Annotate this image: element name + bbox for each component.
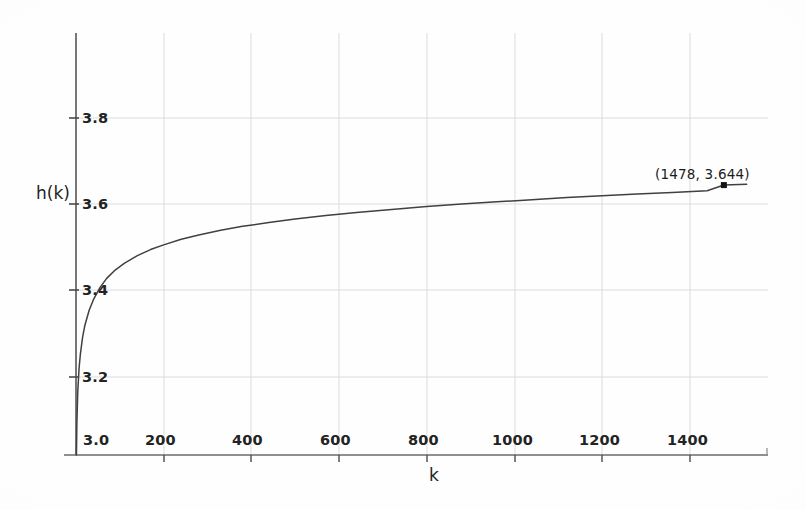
x-tick-label-400: 400 bbox=[232, 432, 263, 448]
annotated-data-point-marker[interactable] bbox=[721, 182, 727, 188]
data-series-curve bbox=[76, 184, 746, 455]
y-tick-label-3.4: 3.4 bbox=[82, 282, 108, 298]
horizontal-gridlines bbox=[76, 118, 768, 377]
y-tick-label-3.2: 3.2 bbox=[82, 369, 108, 385]
x-tick-label-200: 200 bbox=[145, 432, 176, 448]
x-axis-title: k bbox=[429, 465, 439, 485]
data-point-annotation: (1478, 3.644) bbox=[655, 166, 750, 182]
x-tick-label-800: 800 bbox=[408, 432, 439, 448]
x-axis-ticks bbox=[164, 455, 690, 462]
y-axis-ticks bbox=[69, 118, 79, 377]
y-tick-label-3.6: 3.6 bbox=[82, 196, 108, 212]
x-tick-label-1200: 1200 bbox=[579, 432, 620, 448]
y-axis-title: h(k) bbox=[36, 183, 70, 203]
x-tick-label-1000: 1000 bbox=[492, 432, 533, 448]
chart-figure: 3.8 3.6 3.4 3.2 3.0 200 400 600 800 1000… bbox=[0, 0, 806, 510]
x-tick-label-1400: 1400 bbox=[667, 432, 708, 448]
y-tick-label-3.8: 3.8 bbox=[82, 110, 108, 126]
y-origin-label-3.0: 3.0 bbox=[83, 432, 109, 448]
vertical-gridlines bbox=[164, 33, 690, 455]
x-tick-label-600: 600 bbox=[320, 432, 351, 448]
